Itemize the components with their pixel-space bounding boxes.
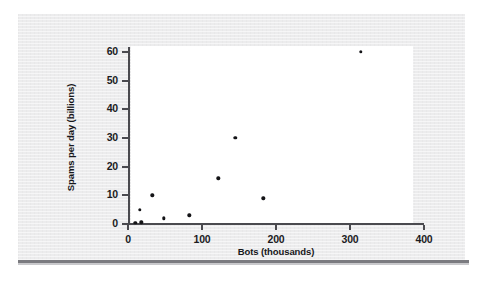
x-axis-title: Bots (thousands) <box>128 246 424 257</box>
x-tick-mark <box>349 225 351 230</box>
figure-panel: 0102030405060 0100200300400 Bots (thousa… <box>18 14 465 262</box>
y-axis-line <box>128 47 130 225</box>
x-tick-label: 400 <box>394 233 454 245</box>
x-tick-mark <box>127 225 129 230</box>
x-tick-label: 300 <box>320 233 380 245</box>
y-tick-mark <box>122 194 128 196</box>
x-tick-mark <box>201 225 203 230</box>
x-tick-mark <box>423 225 425 230</box>
y-tick-mark <box>122 166 128 168</box>
x-tick-label: 200 <box>246 233 306 245</box>
figure-bottom-rule-soft <box>18 263 469 265</box>
y-tick-mark <box>122 108 128 110</box>
x-tick-label: 0 <box>98 233 158 245</box>
plot-area <box>131 46 413 224</box>
x-tick-label: 100 <box>172 233 232 245</box>
x-tick-mark <box>275 225 277 230</box>
y-tick-mark <box>122 51 128 53</box>
y-axis-title: Spams per day (billions) <box>65 53 76 223</box>
y-tick-mark <box>122 137 128 139</box>
y-tick-mark <box>122 80 128 82</box>
